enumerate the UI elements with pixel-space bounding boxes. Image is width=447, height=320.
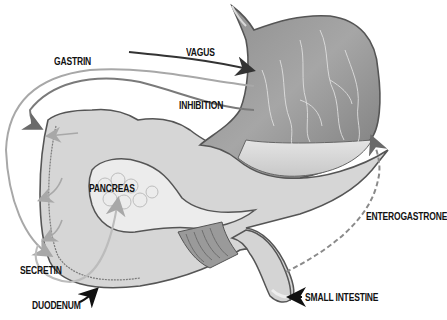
stomach [200,6,380,178]
label-duodenum: DUODENUM [32,301,81,311]
label-pancreas: PANCREAS [89,184,135,194]
digestive-system-diagram [0,0,447,320]
label-small-intestine: SMALL INTESTINE [305,293,378,303]
label-enterogastrone: ENTEROGASTRONE [366,212,447,222]
duodenum-pointer [80,290,96,302]
label-secretin: SECRETIN [20,266,62,276]
label-gastrin: GASTRIN [54,57,91,67]
small-intestine [232,230,291,302]
label-vagus: VAGUS [186,48,215,58]
label-inhibition: INHIBITION [179,101,223,111]
